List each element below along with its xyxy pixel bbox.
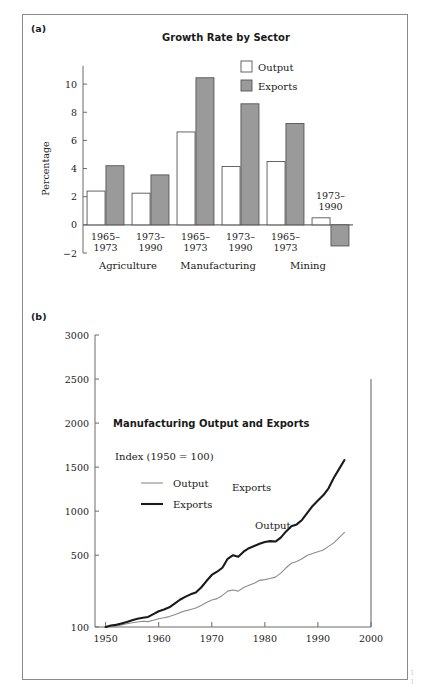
panel-b-legend-label-exports: Exports (173, 499, 212, 510)
panel-a-ytick: 0 (71, 219, 77, 230)
panel-b-legend-label-output: Output (173, 478, 209, 489)
edge-caption-line-1: 1 (410, 669, 440, 678)
panel-b-ytick: 3000 (65, 330, 89, 341)
panel-a-xtick-line2: 1990 (228, 242, 252, 253)
panel-a-inline-annotation-line2: 1990 (318, 201, 342, 212)
series-line-output (106, 532, 345, 627)
panel-a-xtick-line1: 1965– (271, 231, 300, 242)
bar-exports (151, 175, 169, 225)
panel-b-xtick: 1990 (306, 633, 330, 644)
panel-a-ytick: 2 (71, 191, 77, 202)
panel-a-ylabel: Percentage (40, 141, 51, 196)
bar-output (267, 162, 285, 225)
panel-b-inner-title: Manufacturing Output and Exports (113, 418, 309, 429)
panel-a-xtick-line1: 1965– (181, 231, 210, 242)
panel-a-ytick: 4 (71, 163, 77, 174)
panel-a-ytick: 8 (71, 107, 77, 118)
bar-exports (196, 78, 214, 225)
legend-swatch-output (241, 61, 252, 72)
panel-a-xtick-line2: 1973 (183, 242, 207, 253)
series-line-exports (106, 460, 345, 627)
panel-b-inline-label-exports: Exports (232, 482, 271, 493)
panel-b-ytick: 100 (71, 622, 89, 633)
panel-b-ytick: 2000 (65, 418, 89, 429)
panel-b-xtick: 1970 (200, 633, 224, 644)
panel-a-xtick-line1: 1973– (136, 231, 165, 242)
bar-output (222, 166, 240, 224)
legend-label-output: Output (258, 62, 294, 73)
bar-output (177, 132, 195, 225)
bar-output (87, 191, 105, 225)
growth-rate-bar-chart: −20246810PercentageGrowth Rate by Sector… (23, 15, 409, 305)
manufacturing-output-exports-line-chart: 1005001000150020002500300019501960197019… (23, 305, 409, 680)
panel-b-ytick: 1500 (65, 462, 89, 473)
bar-output (132, 193, 150, 225)
edge-caption-line-2: 1 (410, 678, 440, 687)
legend-swatch-exports (241, 80, 252, 91)
panel-a-ytick: 6 (71, 135, 77, 146)
bar-exports (286, 124, 304, 225)
edge-caption: 1 1 (410, 669, 440, 687)
panel-a-xtick-line2: 1973 (93, 242, 117, 253)
panel-b-xtick: 2000 (359, 633, 383, 644)
panel-a-inline-annotation-line1: 1973– (316, 190, 345, 201)
panel-b-subtitle: Index (1950 = 100) (115, 451, 214, 462)
panel-b-xtick: 1950 (94, 633, 118, 644)
figure-frame: (a) −20246810PercentageGrowth Rate by Se… (22, 14, 408, 680)
panel-a-xtick-line2: 1973 (273, 242, 297, 253)
panel-a-ytick: 10 (65, 79, 77, 90)
panel-a-ytick: −2 (63, 248, 77, 259)
panel-a-xtick-line2: 1990 (138, 242, 162, 253)
panel-a-xtick-line1: 1965– (91, 231, 120, 242)
panel-a-sector-label: Agriculture (98, 260, 157, 271)
bar-exports (106, 166, 124, 225)
panel-a-title: Growth Rate by Sector (162, 32, 290, 43)
panel-b-ytick: 2500 (65, 374, 89, 385)
panel-a-sector-label: Manufacturing (180, 260, 256, 271)
panel-b-xtick: 1960 (147, 633, 171, 644)
bar-output (312, 218, 330, 225)
bar-exports (241, 104, 259, 225)
panel-b-xtick: 1980 (253, 633, 277, 644)
panel-b-ytick: 500 (71, 550, 89, 561)
panel-a-sector-label: Mining (290, 260, 327, 271)
panel-b-inline-label-output: Output (255, 520, 291, 531)
panel-a-xtick-line1: 1973– (226, 231, 255, 242)
bar-exports (331, 225, 349, 246)
legend-label-exports: Exports (258, 81, 297, 92)
panel-b-ytick: 1000 (65, 506, 89, 517)
